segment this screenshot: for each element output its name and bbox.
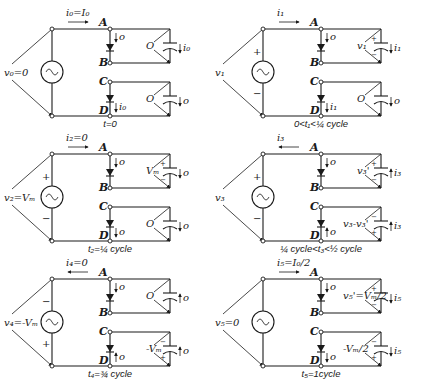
terminal-icon bbox=[108, 205, 112, 209]
node-label-d: D bbox=[98, 104, 109, 117]
diode-ab-icon bbox=[317, 294, 325, 301]
cap-bottom-current-label: o bbox=[183, 345, 189, 356]
terminal-icon bbox=[261, 114, 265, 118]
diode-ab-current-label: o bbox=[119, 156, 125, 167]
cap-bottom-voltage-label: -Vₘ bbox=[146, 343, 162, 354]
source-polarity-bottom: + bbox=[42, 338, 50, 349]
terminal-icon bbox=[108, 311, 112, 315]
circuit-panel-t4: −+v₄=-Vₘi₄=0Oo−+-VₘoooABCDt₄=¾ cycle bbox=[4, 257, 189, 379]
svg-text:+: + bbox=[371, 160, 377, 168]
node-label-c: C bbox=[99, 200, 108, 213]
node-label-a: A bbox=[309, 141, 319, 154]
terminal-icon bbox=[50, 152, 54, 156]
terminal-icon bbox=[261, 152, 265, 156]
node-label-d: D bbox=[309, 354, 320, 367]
source-polarity-top: + bbox=[253, 46, 261, 57]
node-label-c: C bbox=[99, 325, 108, 338]
terminal-icon bbox=[319, 27, 323, 31]
node-label-d: D bbox=[309, 229, 320, 242]
diode-ab-icon bbox=[106, 44, 114, 51]
cap-top-voltage-label: O bbox=[146, 290, 154, 301]
cap-bottom-voltage-label: O bbox=[146, 218, 154, 229]
terminal-icon bbox=[261, 277, 265, 281]
circuit-panel-t0: v₀=0i₀=I₀Oi₀Oooi₀ABCDt=0 bbox=[4, 7, 190, 129]
cap-top-current-label: i₅ bbox=[394, 292, 401, 303]
terminal-icon bbox=[319, 80, 323, 84]
cap-bottom-voltage-label: O bbox=[357, 93, 365, 104]
source-polarity-top: − bbox=[42, 296, 50, 307]
circuit-panel-t2: +−v₂=Vₘi₂=0+−VₘoOoooABCDt₂=¼ cycle bbox=[4, 132, 189, 254]
svg-text:−: − bbox=[371, 213, 377, 221]
terminal-icon bbox=[50, 114, 54, 118]
time-caption: t₂=¼ cycle bbox=[88, 243, 132, 254]
diode-ab-current-label: o bbox=[330, 31, 336, 42]
time-caption: t=0 bbox=[103, 118, 117, 129]
diode-ab-current-label: o bbox=[119, 281, 125, 292]
source-voltage-label: v₃ bbox=[215, 192, 225, 203]
source-voltage-label: v₂=Vₘ bbox=[4, 192, 35, 203]
cap-bottom-voltage-label: v₃-v₃' bbox=[343, 218, 368, 229]
diode-cd-icon bbox=[317, 95, 325, 102]
diode-ab-current-label: o bbox=[119, 31, 125, 42]
circuit-panel-t3: +−v₃i₃+−v₃'i₃−+v₃-v₃'i₃ooABCD¼ cycle<t₃<… bbox=[215, 132, 401, 254]
cap-top-current-label: i₁ bbox=[394, 42, 401, 53]
node-label-a: A bbox=[98, 16, 108, 29]
cap-top-voltage-label: v₁ bbox=[357, 40, 367, 51]
circuit-diagram: v₀=0i₀=I₀Oi₀Oooi₀ABCDt=0+−v₁i₁+−v₁i₁Oooi… bbox=[0, 0, 422, 382]
cap-top-current-label: i₀ bbox=[183, 42, 190, 53]
diode-cd-icon bbox=[106, 220, 114, 227]
cap-bottom-current-label: i₅ bbox=[394, 345, 401, 356]
cap-top-current-label: o bbox=[183, 292, 189, 303]
terminal-icon bbox=[319, 330, 323, 334]
node-label-d: D bbox=[98, 354, 109, 367]
svg-text:+: + bbox=[371, 229, 377, 237]
node-label-d: D bbox=[309, 104, 320, 117]
diode-cd-current-label: i₀ bbox=[119, 101, 126, 112]
svg-text:−: − bbox=[160, 176, 166, 184]
source-polarity-bottom: − bbox=[253, 213, 261, 224]
node-label-a: A bbox=[309, 266, 319, 279]
terminal-icon bbox=[108, 186, 112, 190]
terminal-icon bbox=[319, 152, 323, 156]
node-label-d: D bbox=[98, 229, 109, 242]
svg-text:+: + bbox=[371, 354, 377, 362]
node-label-c: C bbox=[99, 75, 108, 88]
terminal-icon bbox=[261, 239, 265, 243]
cap-bottom-voltage-label: -Vₘ/2 bbox=[343, 343, 369, 354]
source-current-label: i₄=0 bbox=[66, 257, 89, 268]
cap-bottom-voltage-label: O bbox=[146, 93, 154, 104]
diode-cd-current-label: o bbox=[119, 226, 125, 237]
svg-text:−: − bbox=[371, 176, 377, 184]
diode-cd-icon bbox=[106, 95, 114, 102]
node-label-c: C bbox=[310, 200, 319, 213]
circuit-panel-t1: +−v₁i₁+−v₁i₁Oooi₁ABCD0<t₁<¼ cycle bbox=[215, 7, 401, 129]
terminal-icon bbox=[319, 205, 323, 209]
node-label-a: A bbox=[309, 16, 319, 29]
source-current-label: i₅=I₀/2 bbox=[277, 257, 310, 268]
source-voltage-label: v₅=0 bbox=[215, 317, 240, 328]
time-caption: ¼ cycle<t₃<½ cycle bbox=[280, 243, 362, 254]
cap-top-voltage-label: Vₘ bbox=[146, 165, 159, 176]
terminal-icon bbox=[108, 27, 112, 31]
cap-top-voltage-label: v₃' bbox=[357, 165, 369, 176]
terminal-icon bbox=[108, 152, 112, 156]
diode-cd-icon bbox=[106, 345, 114, 352]
source-current-label: i₂=0 bbox=[66, 132, 89, 143]
diode-ab-current-label: o bbox=[330, 281, 336, 292]
source-voltage-label: v₁ bbox=[215, 67, 225, 78]
cap-bottom-current-label: o bbox=[183, 220, 189, 231]
diode-cd-icon bbox=[317, 345, 325, 352]
diode-ab-icon bbox=[317, 44, 325, 51]
terminal-icon bbox=[50, 277, 54, 281]
diode-ab-icon bbox=[106, 294, 114, 301]
time-caption: 0<t₁<¼ cycle bbox=[294, 118, 348, 129]
svg-text:+: + bbox=[160, 160, 166, 168]
source-polarity-bottom: − bbox=[253, 88, 261, 99]
terminal-icon bbox=[108, 61, 112, 65]
node-label-b: B bbox=[98, 181, 108, 194]
cap-top-current-label: o bbox=[183, 167, 189, 178]
terminal-icon bbox=[108, 330, 112, 334]
diode-ab-icon bbox=[317, 169, 325, 176]
terminal-icon bbox=[50, 364, 54, 368]
diode-ab-current-label: o bbox=[330, 156, 336, 167]
